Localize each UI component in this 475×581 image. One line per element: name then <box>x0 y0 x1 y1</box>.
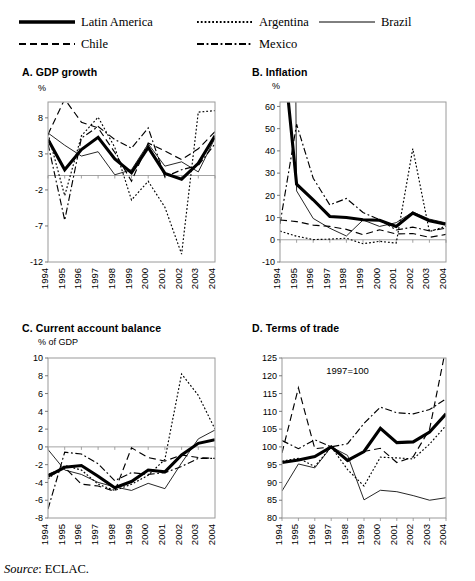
legend-item-brazil: Brazil <box>318 14 412 30</box>
x-tick-label: 2002 <box>404 524 415 545</box>
y-tick-label: -4 <box>35 478 43 488</box>
panel-c-y-unit: % of GDP <box>38 337 78 347</box>
legend-swatch-thick-solid <box>18 15 76 29</box>
legend-swatch-thin-solid <box>318 15 376 29</box>
x-tick-label: 1999 <box>354 268 365 289</box>
y-tick-label: 6 <box>38 389 43 399</box>
y-tick-label: 50 <box>265 124 275 134</box>
y-tick-label: 125 <box>262 353 277 363</box>
panel-a-y-unit: % <box>38 83 46 93</box>
y-tick-label: 85 <box>267 495 277 505</box>
x-tick-label: 2003 <box>420 268 431 289</box>
panel-inflation: B. Inflation % 6050403020100-10199419951… <box>252 66 467 306</box>
legend-item-mexico: Mexico <box>196 36 297 52</box>
x-tick-label: 2003 <box>189 268 200 289</box>
x-tick-label: 1998 <box>337 268 348 289</box>
y-tick-label: -10 <box>262 257 275 267</box>
x-tick-label: 2004 <box>206 268 217 289</box>
x-tick-label: 1994 <box>39 268 50 289</box>
x-tick-label: 1997 <box>322 524 333 545</box>
x-tick-label: 2000 <box>139 524 150 545</box>
chart-annotation: 1997=100 <box>326 365 369 376</box>
x-tick-label: 2000 <box>371 524 382 545</box>
y-tick-label: -8 <box>35 513 43 523</box>
y-tick-label: 110 <box>263 407 277 417</box>
y-tick-label: 115 <box>263 389 277 399</box>
x-tick-label: 2001 <box>156 524 167 545</box>
chart-legend: Latin AmericaArgentinaBrazilChileMexico <box>0 0 475 58</box>
y-tick-label: 30 <box>265 168 275 178</box>
panel-b-y-unit: % <box>272 81 280 91</box>
x-tick-label: 2001 <box>156 268 167 289</box>
x-tick-label: 2000 <box>139 268 150 289</box>
y-tick-label: -12 <box>30 257 43 267</box>
source-note: Source: ECLAC. <box>4 562 89 577</box>
x-tick-label: 1994 <box>39 524 50 545</box>
x-tick-label: 1999 <box>123 524 134 545</box>
panel-terms-of-trade: D. Terms of trade 1251201151101051009590… <box>252 322 467 562</box>
panel-a-title: A. GDP growth <box>22 66 232 78</box>
plot-area-a: 83-2-7-121994199519961997199819992000200… <box>22 94 223 314</box>
x-tick-label: 1999 <box>355 524 366 545</box>
x-tick-label: 1997 <box>89 524 100 545</box>
legend-label: Mexico <box>259 37 297 51</box>
x-tick-label: 1996 <box>72 524 83 545</box>
legend-swatch-dashed <box>18 37 76 51</box>
legend-swatch-dash-dot <box>196 37 254 51</box>
x-tick-label: 2002 <box>404 268 415 289</box>
y-tick-label: 120 <box>262 371 277 381</box>
y-tick-label: 95 <box>267 460 277 470</box>
y-tick-label: -2 <box>35 460 43 470</box>
y-tick-label: -7 <box>35 221 43 231</box>
legend-item-chile: Chile <box>18 36 108 52</box>
legend-label: Argentina <box>259 15 309 29</box>
x-tick-label: 1996 <box>306 524 317 545</box>
x-tick-label: 1996 <box>304 268 315 289</box>
plot-area-c: 1086420-2-4-6-81994199519961997199819992… <box>22 350 223 570</box>
x-tick-label: 1995 <box>56 268 67 289</box>
y-tick-label: 10 <box>33 353 43 363</box>
legend-swatch-fine-dotted <box>196 15 254 29</box>
y-tick-label: 8 <box>38 113 43 123</box>
x-tick-label: 2004 <box>437 524 448 545</box>
y-tick-label: 4 <box>38 407 43 417</box>
y-tick-label: 40 <box>265 146 275 156</box>
y-tick-label: 105 <box>262 424 277 434</box>
y-tick-label: 90 <box>267 478 277 488</box>
legend-item-argentina: Argentina <box>196 14 309 30</box>
plot-frame <box>48 358 215 518</box>
panel-gdp-growth: A. GDP growth % 83-2-7-12199419951996199… <box>22 66 232 306</box>
x-tick-label: 2001 <box>388 524 399 545</box>
legend-label: Brazil <box>381 15 412 29</box>
y-tick-label: 60 <box>265 102 275 112</box>
y-tick-label: 20 <box>265 191 275 201</box>
x-tick-label: 2004 <box>206 524 217 545</box>
y-tick-label: 100 <box>262 442 277 452</box>
legend-label: Latin America <box>81 15 153 29</box>
x-tick-label: 2003 <box>189 524 200 545</box>
y-tick-label: 8 <box>38 371 43 381</box>
panel-b-title: B. Inflation <box>252 66 467 78</box>
y-tick-label: 3 <box>38 149 43 159</box>
y-tick-label: 2 <box>38 424 43 434</box>
y-tick-label: 10 <box>265 213 275 223</box>
y-tick-label: -2 <box>35 185 43 195</box>
x-tick-label: 2000 <box>371 268 382 289</box>
legend-item-latin-america: Latin America <box>18 14 153 30</box>
x-tick-label: 1994 <box>273 524 284 545</box>
y-tick-label: 80 <box>267 513 277 523</box>
x-tick-label: 1995 <box>56 524 67 545</box>
x-tick-label: 1997 <box>89 268 100 289</box>
panel-d-plot: 1251201151101051009590858019941995199619… <box>252 350 454 570</box>
x-tick-label: 1999 <box>123 268 134 289</box>
panel-a-plot: 83-2-7-121994199519961997199819992000200… <box>22 94 223 314</box>
x-tick-label: 1995 <box>289 524 300 545</box>
y-tick-label: 0 <box>38 442 43 452</box>
panel-d-title: D. Terms of trade <box>252 322 467 334</box>
x-tick-label: 1998 <box>106 524 117 545</box>
panel-c-plot: 1086420-2-4-6-81994199519961997199819992… <box>22 350 223 570</box>
x-tick-label: 1995 <box>288 268 299 289</box>
x-tick-label: 1996 <box>72 268 83 289</box>
plot-frame <box>280 102 446 262</box>
x-tick-label: 2004 <box>437 268 448 289</box>
